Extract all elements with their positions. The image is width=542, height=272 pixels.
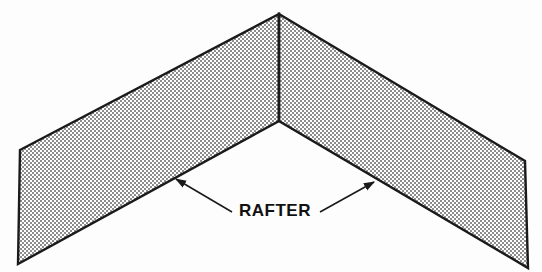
right-leader-line [320,182,374,212]
rafter-diagram: RAFTER [0,0,542,272]
rafter-label: RAFTER [239,201,311,220]
left-leader-line [176,179,232,212]
right-rafter-shape [279,14,528,268]
rafter-diagram-canvas: RAFTER [0,0,542,272]
left-rafter-shape [18,14,279,264]
